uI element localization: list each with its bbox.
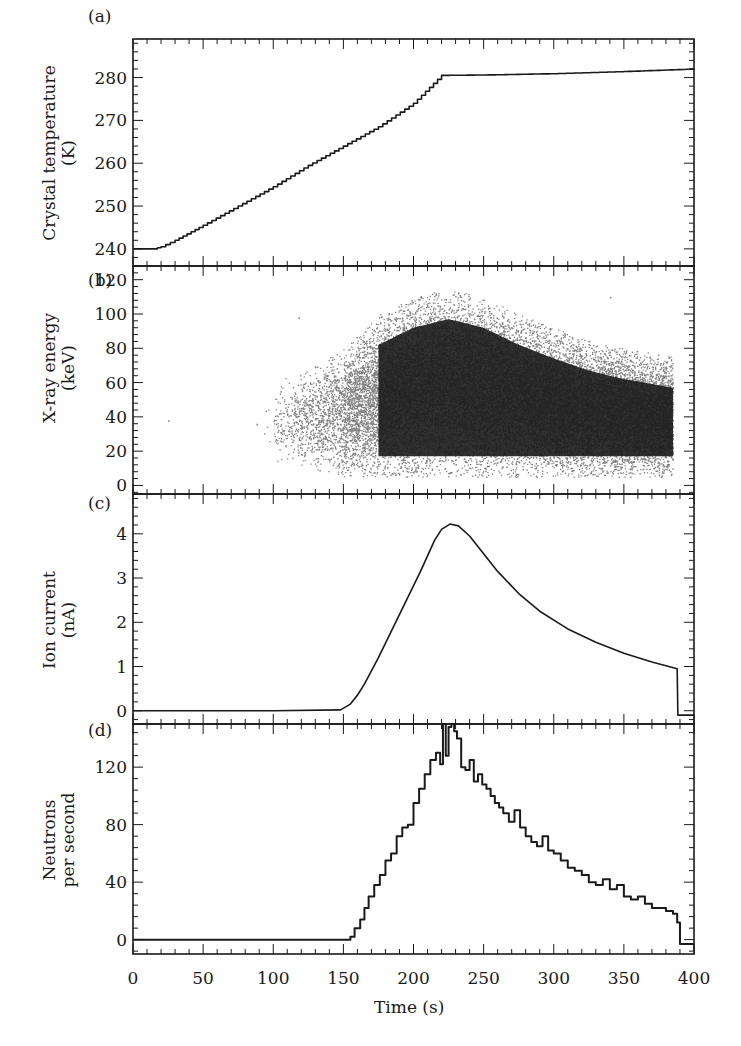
y-tick-label: 0	[116, 475, 127, 495]
y-tick-label: 120	[95, 757, 127, 777]
ylabel-line1: Ion current	[40, 520, 59, 720]
panel-b: 020406080100120	[95, 266, 694, 495]
x-axis-label: Time (s)	[374, 997, 444, 1017]
y-tick-label: 270	[95, 110, 127, 130]
panel-b-ylabel: X-ray energy (keV)	[40, 268, 80, 468]
y-tick-label: 80	[105, 338, 127, 358]
panel-a: 240250260270280	[95, 39, 694, 266]
x-tick-label: 300	[538, 968, 570, 988]
panel-b-label: (b)	[88, 270, 112, 290]
y-tick-label: 0	[116, 930, 127, 950]
y-tick-label: 4	[116, 524, 127, 544]
figure: 2402502602702800204060801001200123404080…	[0, 0, 741, 1046]
ylabel-line2: (K)	[59, 53, 78, 253]
y-tick-label: 60	[105, 373, 127, 393]
ylabel-line2: per second	[59, 740, 78, 940]
y-tick-label: 280	[95, 68, 127, 88]
ylabel-line1: Crystal temperature	[40, 53, 59, 253]
y-tick-label: 40	[105, 872, 127, 892]
ylabel-line1: X-ray energy	[40, 268, 59, 468]
y-tick-label: 240	[95, 239, 127, 259]
x-tick-label: 0	[128, 968, 139, 988]
y-tick-label: 40	[105, 407, 127, 427]
ylabel-line2: (nA)	[59, 520, 78, 720]
y-tick-label: 80	[105, 815, 127, 835]
y-tick-label: 100	[95, 304, 127, 324]
y-tick-label: 0	[116, 701, 127, 721]
y-tick-label: 3	[116, 568, 127, 588]
data-series	[133, 524, 694, 715]
chart-canvas: 2402502602702800204060801001200123404080…	[0, 0, 741, 1046]
ylabel-line2: (keV)	[59, 268, 78, 468]
y-tick-label: 20	[105, 441, 127, 461]
y-tick-label: 260	[95, 153, 127, 173]
y-tick-label: 250	[95, 196, 127, 216]
x-tick-label: 150	[327, 968, 359, 988]
x-tick-label: 400	[678, 968, 710, 988]
data-series	[133, 724, 694, 944]
x-tick-label: 250	[467, 968, 499, 988]
panel-a-label: (a)	[88, 6, 111, 26]
panel-d: 04080120050100150200250300350400	[95, 724, 711, 988]
scatter-points	[168, 292, 674, 479]
x-tick-label: 200	[397, 968, 429, 988]
panel-c-ylabel: Ion current (nA)	[40, 520, 80, 720]
y-tick-label: 2	[116, 612, 127, 632]
panel-c-label: (c)	[88, 493, 111, 513]
data-series	[133, 69, 694, 249]
x-tick-label: 100	[257, 968, 289, 988]
panel-c: 01234	[116, 494, 694, 724]
panel-d-label: (d)	[88, 720, 112, 740]
x-tick-label: 50	[192, 968, 214, 988]
x-tick-label: 350	[608, 968, 640, 988]
y-tick-label: 1	[116, 657, 127, 677]
panel-d-ylabel: Neutrons per second	[40, 740, 80, 940]
panel-a-ylabel: Crystal temperature (K)	[40, 53, 80, 253]
ylabel-line1: Neutrons	[40, 740, 59, 940]
